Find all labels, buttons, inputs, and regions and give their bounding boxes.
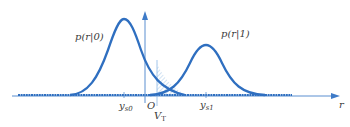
label-ys1-sub: s1 <box>206 104 214 112</box>
label-ys0-sub: s0 <box>125 105 133 113</box>
diagram-canvas <box>0 0 350 127</box>
label-ys0: ys0 <box>119 101 133 114</box>
label-p-r-given-1: p(r|1) <box>221 29 250 39</box>
label-x-axis: r <box>339 100 344 110</box>
label-ys1: ys1 <box>200 100 214 113</box>
y-axis-arrow-icon <box>142 11 148 20</box>
label-threshold: VT <box>154 111 166 124</box>
label-p-r-given-0: p(r|0) <box>75 32 104 42</box>
label-threshold-sub: T <box>161 115 166 123</box>
